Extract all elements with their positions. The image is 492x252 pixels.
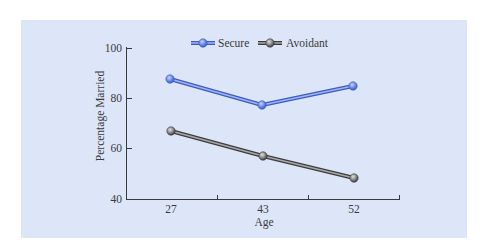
legend-label: Avoidant (286, 37, 329, 49)
data-point (350, 174, 358, 182)
legend-item-avoidant: Avoidant (258, 37, 329, 49)
line-chart: 100 80 60 40 27 43 52 Age Percentage Mar… (0, 0, 492, 252)
y-tick-label: 40 (111, 193, 123, 205)
series-secure (166, 75, 357, 109)
legend-marker-icon (266, 39, 274, 47)
axes (126, 47, 400, 200)
legend: Secure Avoidant (191, 37, 329, 49)
x-axis-title: Age (254, 216, 273, 229)
x-tick-label: 52 (348, 203, 360, 215)
data-point (259, 152, 267, 160)
data-point (349, 82, 357, 90)
y-tick-label: 100 (105, 42, 123, 54)
x-tick-label: 43 (257, 203, 269, 215)
data-point (166, 75, 174, 83)
data-point (258, 101, 266, 109)
data-point (167, 127, 175, 135)
y-tick-label: 60 (111, 142, 123, 154)
series-avoidant (167, 127, 358, 182)
legend-label: Secure (218, 37, 249, 49)
legend-item-secure: Secure (191, 37, 249, 49)
y-axis-title: Percentage Married (94, 71, 107, 162)
x-tick-label: 27 (165, 203, 177, 215)
legend-marker-icon (199, 39, 207, 47)
y-tick-label: 80 (111, 92, 123, 104)
